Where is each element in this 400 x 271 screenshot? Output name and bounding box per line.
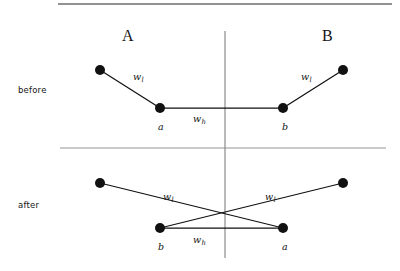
edge-after-B-outer-b (160, 183, 343, 228)
edge-weight-label-after-0: wl (163, 192, 173, 202)
node-before-b (278, 103, 288, 113)
panel-after-nodes (95, 178, 348, 233)
edge-weight-label-before-0: wl (133, 72, 143, 82)
weight-symbol: w (301, 71, 309, 82)
weight-subscript: l (141, 76, 143, 84)
weight-symbol: w (133, 71, 141, 82)
edge-after-A-outer-a (100, 183, 283, 228)
column-header-a: A (122, 28, 134, 44)
node-before-A_outer (95, 65, 105, 75)
node-after-B_outer (338, 178, 348, 188)
edge-before-A-outer-a (100, 70, 160, 108)
weight-subscript: l (309, 76, 311, 84)
node-after-a (278, 223, 288, 233)
row-label-before: before (18, 86, 47, 95)
row-label-after: after (18, 201, 39, 210)
edge-weight-label-after-1: wh (193, 235, 206, 245)
panel-after-edges (100, 183, 343, 228)
node-before-B_outer (338, 65, 348, 75)
weight-subscript: h (201, 239, 205, 247)
weight-symbol: w (265, 191, 273, 202)
diagram-canvas (0, 0, 400, 271)
weight-symbol: w (193, 234, 201, 245)
edge-weight-label-after-2: wl (265, 192, 275, 202)
weight-subscript: l (273, 196, 275, 204)
edge-before-b-B-outer (283, 70, 343, 108)
column-header-b: B (322, 28, 333, 44)
node-label-after-a: a (282, 242, 288, 252)
edge-weight-label-before-1: wh (193, 114, 206, 124)
node-before-a (155, 103, 165, 113)
node-label-after-b: b (158, 242, 164, 252)
edge-swap-figure: A B before after wlwhwlabwlwhwlba (0, 0, 400, 271)
weight-subscript: h (201, 118, 205, 126)
node-label-before-b: b (282, 122, 288, 132)
node-after-b (155, 223, 165, 233)
node-after-A_outer (95, 178, 105, 188)
edge-weight-label-before-2: wl (301, 72, 311, 82)
weight-symbol: w (193, 113, 201, 124)
weight-subscript: l (171, 196, 173, 204)
node-label-before-a: a (158, 122, 164, 132)
weight-symbol: w (163, 191, 171, 202)
